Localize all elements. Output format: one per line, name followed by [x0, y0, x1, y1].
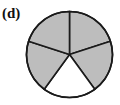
fraction-circle-diagram — [0, 0, 120, 105]
